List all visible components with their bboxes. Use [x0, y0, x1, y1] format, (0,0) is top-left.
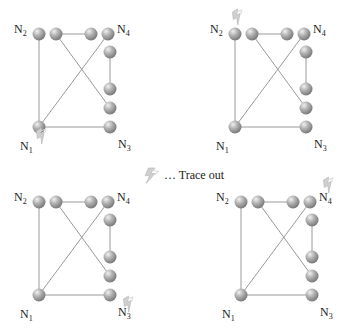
- edge-a-e: [56, 34, 110, 108]
- node-label-N4: N4: [319, 190, 332, 206]
- diagram-panels: N2N4N3N1N2N4N3N1N2N4N3N1N2N4N3N1: [14, 8, 338, 324]
- node-c: [104, 214, 117, 227]
- node-label-N2: N2: [14, 22, 27, 38]
- node-c: [306, 214, 319, 227]
- node-a: [246, 28, 259, 41]
- node-a: [252, 196, 265, 209]
- panel-top-right: N2N4N3N1: [210, 8, 327, 156]
- node-b: [85, 196, 98, 209]
- edge-N4-N1: [39, 34, 108, 127]
- node-c: [104, 46, 117, 59]
- panel-bottom-right: N2N4N3N1: [216, 176, 338, 324]
- node-N1: [33, 289, 46, 302]
- node-b: [85, 28, 98, 41]
- node-b: [281, 28, 294, 41]
- node-label-N1: N1: [222, 307, 235, 323]
- node-a: [50, 28, 63, 41]
- node-e: [306, 270, 319, 283]
- legend-text: … Trace out: [164, 168, 225, 182]
- node-N3: [306, 289, 319, 302]
- node-N2: [33, 196, 46, 209]
- node-N3: [104, 289, 117, 302]
- edge-N4-N1: [235, 34, 304, 127]
- node-e: [104, 270, 117, 283]
- node-N2: [33, 28, 46, 41]
- node-N4: [102, 196, 115, 209]
- edge-a-e: [258, 202, 312, 276]
- node-b: [287, 196, 300, 209]
- node-N1: [229, 121, 242, 134]
- node-d: [306, 251, 319, 264]
- trace-out-icon: [230, 8, 247, 26]
- trace-out-legend: … Trace out: [145, 168, 225, 183]
- node-N1: [235, 289, 248, 302]
- node-N4: [304, 196, 317, 209]
- node-N4: [298, 28, 311, 41]
- node-N3: [300, 121, 313, 134]
- panel-top-left: N2N4N3N1: [14, 22, 131, 155]
- node-d: [300, 83, 313, 96]
- lightning-bolt-icon: [145, 168, 158, 183]
- network-diagram: N2N4N3N1N2N4N3N1N2N4N3N1N2N4N3N1 … Trace…: [0, 0, 356, 334]
- node-N3: [104, 121, 117, 134]
- node-N2: [235, 196, 248, 209]
- node-label-N4: N4: [117, 190, 130, 206]
- edge-a-e: [56, 202, 110, 276]
- node-label-N3: N3: [314, 137, 327, 153]
- node-label-N1: N1: [20, 307, 33, 323]
- edge-N4-N1: [39, 202, 108, 295]
- node-label-N4: N4: [313, 22, 326, 38]
- node-label-N1: N1: [20, 139, 33, 155]
- node-N4: [102, 28, 115, 41]
- node-label-N1: N1: [216, 139, 229, 155]
- edge-a-e: [252, 34, 306, 108]
- node-d: [104, 83, 117, 96]
- node-e: [104, 102, 117, 115]
- node-label-N3: N3: [320, 305, 333, 321]
- panel-bottom-left: N2N4N3N1: [14, 190, 138, 323]
- node-label-N4: N4: [117, 22, 130, 38]
- node-a: [50, 196, 63, 209]
- node-label-N2: N2: [14, 190, 27, 206]
- node-label-N3: N3: [118, 137, 131, 153]
- node-N2: [229, 28, 242, 41]
- node-c: [300, 46, 313, 59]
- node-d: [104, 251, 117, 264]
- edge-N4-N1: [241, 202, 310, 295]
- node-e: [300, 102, 313, 115]
- node-label-N2: N2: [216, 190, 229, 206]
- node-label-N2: N2: [210, 22, 223, 38]
